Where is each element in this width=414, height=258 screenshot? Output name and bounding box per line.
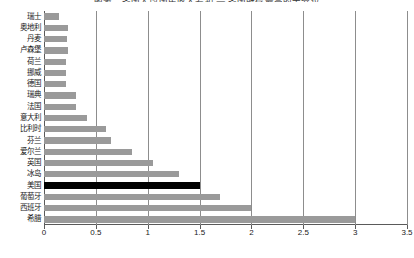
- bar-row: [44, 149, 407, 155]
- y-axis-label: 法国: [0, 103, 41, 111]
- x-axis-tick-label: 2: [249, 228, 253, 237]
- x-axis-tick-label: 3.5: [401, 228, 412, 237]
- plot-area: [44, 11, 407, 225]
- y-axis-label: 丹麦: [0, 35, 41, 43]
- gridline: [407, 11, 408, 225]
- bar: [44, 92, 76, 98]
- y-axis-label: 挪威: [0, 69, 41, 77]
- y-axis-label: 英国: [0, 159, 41, 167]
- bar-row: [44, 182, 407, 188]
- bar: [44, 59, 66, 65]
- x-axis-tick: [251, 225, 252, 229]
- bar: [44, 194, 220, 200]
- y-axis-label: 比利时: [0, 125, 41, 133]
- y-axis-label: 卢森堡: [0, 46, 41, 54]
- bar: [44, 115, 87, 121]
- bar-row: [44, 160, 407, 166]
- y-axis-label: 葡萄牙: [0, 193, 41, 201]
- x-axis-tick: [407, 225, 408, 229]
- x-axis-tick: [148, 225, 149, 229]
- y-axis-label: 西班牙: [0, 204, 41, 212]
- y-axis-label: 爱尔兰: [0, 148, 41, 156]
- bar: [44, 25, 68, 31]
- y-axis-label: 芬兰: [0, 137, 41, 145]
- bar: [44, 104, 76, 110]
- y-axis-label: 瑞典: [0, 91, 41, 99]
- bar-row: [44, 126, 407, 132]
- y-axis-label: 奥地利: [0, 24, 41, 32]
- bar: [44, 216, 355, 222]
- bar-row: [44, 36, 407, 42]
- y-axis-label: 冰岛: [0, 170, 41, 178]
- x-axis-tick-label: 3: [353, 228, 357, 237]
- bar-row: [44, 59, 407, 65]
- bar-row: [44, 137, 407, 143]
- y-axis-label: 德国: [0, 80, 41, 88]
- y-axis-label: 荷兰: [0, 58, 41, 66]
- bar: [44, 70, 66, 76]
- bar-row: [44, 205, 407, 211]
- x-axis-tick-labels: 00.511.522.533.5: [0, 228, 414, 242]
- bar-row: [44, 92, 407, 98]
- bar: [44, 126, 106, 132]
- bar-chart: 图表：各国人均国民收入差距 — 各国所得最高的十分位 瑞士奥地利丹麦卢森堡荷兰挪…: [0, 0, 414, 258]
- x-axis-tick: [96, 225, 97, 229]
- bar-highlight: [44, 182, 200, 188]
- x-axis-tick: [355, 225, 356, 229]
- y-axis-label: 瑞士: [0, 13, 41, 21]
- x-axis-tick-label: 2.5: [298, 228, 309, 237]
- bar-row: [44, 171, 407, 177]
- bar-row: [44, 13, 407, 19]
- y-axis-label: 希腊: [0, 215, 41, 223]
- bar: [44, 47, 68, 53]
- x-axis-tick-label: 1: [145, 228, 149, 237]
- bar: [44, 13, 59, 19]
- x-axis-tick-label: 0: [42, 228, 46, 237]
- y-axis-label: 美国: [0, 182, 41, 190]
- x-axis-tick-label: 0.5: [90, 228, 101, 237]
- x-axis-tick-label: 1.5: [194, 228, 205, 237]
- bar-row: [44, 104, 407, 110]
- y-axis-category-labels: 瑞士奥地利丹麦卢森堡荷兰挪威德国瑞典法国意大利比利时芬兰爱尔兰英国冰岛美国葡萄牙…: [0, 11, 42, 225]
- x-axis-tick: [303, 225, 304, 229]
- y-axis-label: 意大利: [0, 114, 41, 122]
- bar-row: [44, 115, 407, 121]
- bar-row: [44, 70, 407, 76]
- bar-row: [44, 194, 407, 200]
- bar: [44, 137, 111, 143]
- bar-row: [44, 81, 407, 87]
- bar-row: [44, 25, 407, 31]
- bar: [44, 36, 67, 42]
- bar: [44, 205, 251, 211]
- bar: [44, 81, 66, 87]
- x-axis-line: [44, 224, 407, 225]
- x-axis-tick: [200, 225, 201, 229]
- bar: [44, 171, 179, 177]
- chart-title: 图表：各国人均国民收入差距 — 各国所得最高的十分位: [0, 0, 414, 2]
- x-axis-tick: [44, 225, 45, 229]
- bar: [44, 149, 132, 155]
- bar: [44, 160, 153, 166]
- bar-row: [44, 216, 407, 222]
- bar-row: [44, 47, 407, 53]
